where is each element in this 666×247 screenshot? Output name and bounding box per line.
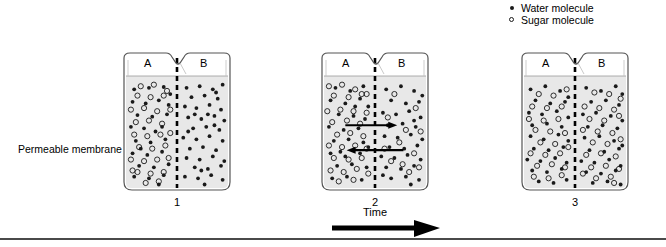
- spout-inner-line: [378, 63, 384, 74]
- water-molecule: [399, 167, 403, 171]
- water-molecule: [620, 119, 624, 123]
- water-molecule: [221, 178, 225, 182]
- water-molecule: [219, 164, 223, 168]
- water-molecule: [160, 150, 164, 154]
- water-molecule: [363, 117, 367, 121]
- water-molecule: [525, 158, 529, 162]
- legend-label-sugar: Sugar molecule: [521, 14, 594, 26]
- water-molecule: [193, 165, 197, 169]
- water-molecule: [132, 87, 136, 91]
- water-molecule: [389, 98, 393, 102]
- water-molecule: [620, 144, 624, 148]
- water-molecule: [195, 106, 199, 110]
- water-molecule: [345, 175, 349, 179]
- water-molecule: [553, 156, 557, 160]
- water-molecule: [381, 111, 385, 115]
- water-molecule: [195, 137, 199, 141]
- water-molecule: [412, 164, 416, 168]
- beaker-graphic: [520, 52, 630, 192]
- water-molecule: [417, 178, 421, 182]
- legend-label-water: Water molecule: [521, 2, 594, 14]
- water-molecule: [136, 113, 140, 117]
- water-molecule: [206, 167, 210, 171]
- water-molecule: [419, 116, 423, 120]
- water-molecule: [208, 134, 212, 138]
- water-molecule: [599, 172, 603, 176]
- time-arrow-icon: [330, 218, 450, 240]
- water-molecule: [394, 112, 398, 116]
- beaker-graphic: [122, 52, 232, 192]
- water-molecule: [545, 170, 549, 174]
- water-molecule: [216, 97, 220, 101]
- water-molecule: [185, 156, 189, 160]
- beaker-3: AB: [520, 52, 630, 192]
- water-molecule: [358, 151, 362, 155]
- water-molecule: [147, 176, 151, 180]
- water-molecule: [214, 148, 218, 152]
- water-molecule: [209, 173, 213, 177]
- water-molecule: [619, 183, 623, 187]
- water-molecule: [589, 100, 593, 104]
- water-molecule: [208, 103, 212, 107]
- water-molecule: [167, 162, 171, 166]
- water-molecule: [530, 123, 534, 127]
- water-molecule: [407, 109, 411, 113]
- beaker-number-3: 3: [520, 196, 630, 208]
- water-molecule: [199, 169, 203, 173]
- water-molecule: [420, 94, 424, 98]
- water-molecule: [204, 125, 208, 129]
- water-molecule: [389, 176, 393, 180]
- compartment-label-a: A: [542, 57, 549, 69]
- bottom-divider: [0, 238, 666, 240]
- permeable-membrane-label: Permeable membrane: [18, 143, 122, 155]
- water-molecule: [379, 155, 383, 159]
- spout-inner-line: [180, 63, 186, 74]
- water-molecule: [606, 180, 610, 184]
- legend: Water molecule Sugar molecule: [505, 2, 665, 26]
- water-molecule: [206, 112, 210, 116]
- water-molecule: [357, 126, 361, 130]
- water-molecule: [534, 98, 538, 102]
- water-molecule: [134, 139, 138, 143]
- compartment-label-a: A: [144, 57, 151, 69]
- water-molecule: [617, 103, 621, 107]
- water-molecule: [203, 94, 207, 98]
- water-molecule: [594, 111, 598, 115]
- water-molecule: [420, 137, 424, 141]
- water-molecule: [404, 175, 408, 179]
- water-molecule: [591, 181, 595, 185]
- water-molecule: [586, 125, 590, 129]
- water-molecule: [539, 159, 543, 163]
- water-molecule: [343, 102, 347, 106]
- water-molecule: [601, 123, 605, 127]
- water-molecule: [165, 112, 169, 116]
- water-molecule: [588, 148, 592, 152]
- water-molecule: [557, 133, 561, 137]
- sugar-molecule-icon: [509, 17, 514, 22]
- water-molecule: [131, 151, 135, 155]
- compartment-label-a: A: [342, 57, 349, 69]
- water-molecule: [383, 134, 387, 138]
- water-molecule: [348, 89, 352, 93]
- water-molecule: [404, 102, 408, 106]
- water-molecule-icon: [510, 6, 514, 10]
- water-molecule: [384, 165, 388, 169]
- water-molecule: [412, 119, 416, 123]
- water-molecule: [186, 130, 190, 134]
- water-molecule: [612, 139, 616, 143]
- water-molecule: [145, 153, 149, 157]
- water-molecule: [399, 84, 403, 88]
- legend-item-water: Water molecule: [505, 2, 665, 14]
- water-molecule: [131, 100, 135, 104]
- water-molecule: [537, 180, 541, 184]
- water-molecule: [527, 111, 531, 115]
- beaker-1: AB: [122, 52, 232, 192]
- water-molecule: [620, 92, 624, 96]
- water-molecule: [532, 147, 536, 151]
- water-molecule: [221, 83, 225, 87]
- water-molecule: [137, 164, 141, 168]
- osmosis-diffusion-figure: Water molecule Sugar molecule Permeable …: [0, 0, 666, 247]
- water-molecule: [199, 117, 203, 121]
- water-molecule: [150, 115, 154, 119]
- beaker-graphic: [320, 52, 430, 192]
